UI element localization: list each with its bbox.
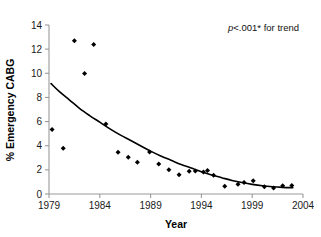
data-point xyxy=(82,71,87,76)
data-point xyxy=(187,169,192,174)
p-value-annotation: p<.001* for trend xyxy=(227,22,299,33)
data-point xyxy=(251,178,256,183)
x-tick-label: 1979 xyxy=(38,200,61,211)
x-tick-label: 2004 xyxy=(292,200,315,211)
chart-canvas: 02468101214 197919841989199419992004 % E… xyxy=(0,0,321,237)
data-point xyxy=(116,150,121,155)
data-point xyxy=(211,173,216,178)
y-tick-label: 10 xyxy=(31,68,43,79)
y-tick-label: 4 xyxy=(36,140,42,151)
data-point xyxy=(166,167,171,172)
data-point-group xyxy=(50,38,295,190)
y-tick-label: 0 xyxy=(36,189,42,200)
y-tick-label: 14 xyxy=(31,20,43,31)
p-value-rest: <.001* for trend xyxy=(233,22,299,33)
data-point xyxy=(91,42,96,47)
x-tick-label: 1989 xyxy=(139,200,162,211)
y-tick-label: 8 xyxy=(36,92,42,103)
y-tick-label: 12 xyxy=(31,44,43,55)
data-point xyxy=(50,127,55,132)
data-point xyxy=(205,168,210,173)
data-point xyxy=(242,180,247,185)
y-axis-tick-group: 02468101214 xyxy=(31,20,49,200)
data-point xyxy=(177,172,182,177)
fitted-trend-curve xyxy=(51,84,293,188)
data-point xyxy=(61,146,66,151)
x-tick-label: 1984 xyxy=(89,200,112,211)
y-tick-label: 6 xyxy=(36,116,42,127)
x-tick-label: 1999 xyxy=(241,200,264,211)
data-point xyxy=(72,38,77,43)
emergency-cabg-trend-figure: 02468101214 197919841989199419992004 % E… xyxy=(0,0,321,237)
y-axis-title: % Emergency CABG xyxy=(4,59,16,162)
data-point xyxy=(156,162,161,167)
data-point xyxy=(201,170,206,175)
x-axis-title: Year xyxy=(165,218,187,230)
data-point xyxy=(135,160,140,165)
data-point xyxy=(222,184,227,189)
data-point xyxy=(126,155,131,160)
x-tick-label: 1994 xyxy=(190,200,213,211)
y-tick-label: 2 xyxy=(36,164,42,175)
data-point xyxy=(262,184,267,189)
x-axis-tick-group: 197919841989199419992004 xyxy=(38,194,315,211)
